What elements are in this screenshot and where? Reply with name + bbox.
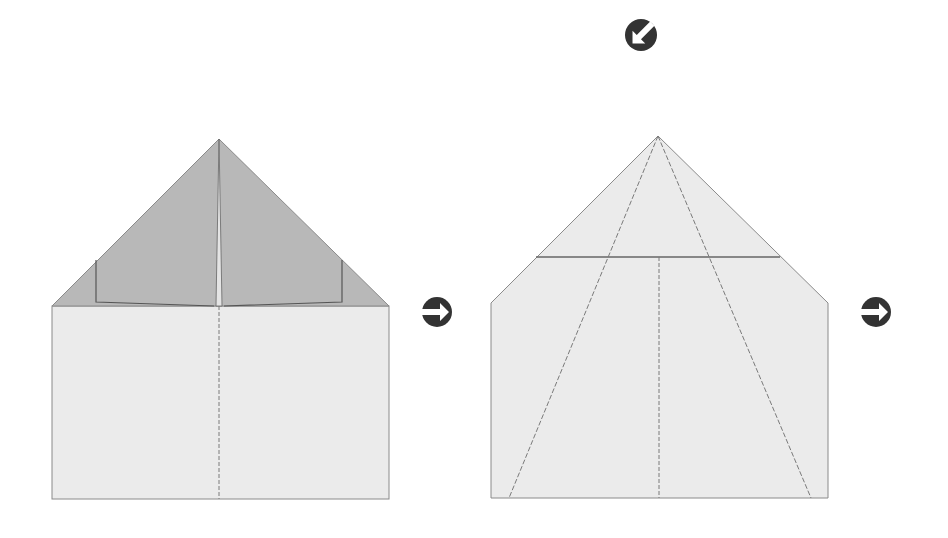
step-1-figure xyxy=(52,139,389,499)
paper-body xyxy=(52,306,389,499)
arrow-down-left-circle-icon xyxy=(625,17,659,51)
origami-diagram xyxy=(0,0,948,538)
arrow-right-circle-icon xyxy=(422,297,452,327)
arrow-right-circle-icon xyxy=(861,297,891,327)
step-2-figure xyxy=(491,136,828,498)
